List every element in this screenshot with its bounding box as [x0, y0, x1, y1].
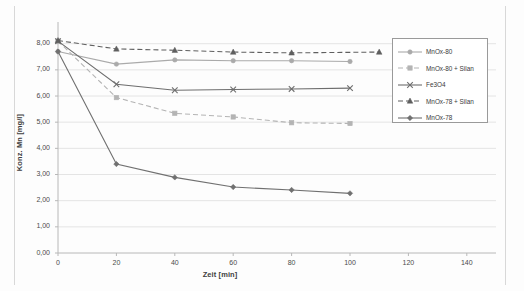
- legend-swatch-circle: [397, 47, 423, 57]
- x-tick-label: 80: [277, 259, 307, 266]
- data-point-square: [231, 115, 235, 119]
- series-3: [55, 38, 382, 55]
- series-0: [56, 49, 352, 66]
- data-point-square: [114, 95, 118, 99]
- legend-item-fe3o4[interactable]: Fe3O4: [397, 76, 446, 93]
- data-point-diamond: [114, 161, 119, 166]
- y-tick-label: 0,00: [20, 249, 50, 256]
- legend-swatch-triangle: [397, 96, 423, 106]
- data-point-square: [173, 111, 177, 115]
- data-point-square: [348, 121, 352, 125]
- data-point-circle: [289, 59, 293, 63]
- x-tick-label: 60: [218, 259, 248, 266]
- legend-item-mnox-80[interactable]: MnOx-80: [397, 43, 452, 60]
- legend-swatch-square: [397, 63, 423, 73]
- series-line: [58, 41, 379, 53]
- y-tick-label: 8,00: [20, 39, 50, 46]
- y-tick-label: 5,00: [20, 118, 50, 125]
- legend-label: Fe3O4: [426, 81, 446, 88]
- legend-swatch-diamond: [397, 113, 423, 123]
- data-point-diamond: [55, 49, 60, 54]
- y-tick-label: 6,00: [20, 92, 50, 99]
- y-tick-label: 4,00: [20, 144, 50, 151]
- x-tick-label: 20: [101, 259, 131, 266]
- y-tick-label: 3,00: [20, 170, 50, 177]
- legend-item-mnox-78-silan[interactable]: MnOx-78 + Silan: [397, 93, 474, 110]
- legend-swatch-cross: [397, 80, 423, 90]
- y-tick-label: 7,00: [20, 65, 50, 72]
- legend-label: MnOx-78: [426, 114, 452, 121]
- series-line: [58, 41, 350, 123]
- x-tick-label: 140: [452, 259, 482, 266]
- x-tick-label: 100: [335, 259, 365, 266]
- legend-label: MnOx-78 + Silan: [426, 98, 474, 105]
- data-series-group: [55, 38, 382, 196]
- data-point-diamond: [347, 191, 352, 196]
- chart-figure: 0,001,002,003,004,005,006,007,008,000204…: [0, 0, 524, 291]
- legend-item-mnox-80-silan[interactable]: MnOx-80 + Silan: [397, 60, 474, 77]
- data-point-circle: [231, 59, 235, 63]
- legend-item-mnox-78[interactable]: MnOx-78: [397, 109, 452, 126]
- data-point-circle: [173, 58, 177, 62]
- legend-label: MnOx-80 + Silan: [426, 65, 474, 72]
- data-point-square: [408, 66, 412, 70]
- data-point-diamond: [172, 175, 177, 180]
- y-tick-label: 2,00: [20, 196, 50, 203]
- data-point-triangle: [376, 49, 382, 54]
- series-line: [58, 52, 350, 65]
- data-point-diamond: [231, 184, 236, 189]
- legend-label: MnOx-80: [426, 48, 452, 55]
- data-point-circle: [114, 62, 118, 66]
- data-point-square: [289, 121, 293, 125]
- x-axis-title: Zeit [min]: [0, 270, 440, 279]
- data-point-diamond: [407, 115, 412, 120]
- x-tick-label: 120: [393, 259, 423, 266]
- y-axis-title: Konz. Mn [mg/l]: [15, 88, 24, 198]
- x-tick-label: 40: [160, 259, 190, 266]
- chart-legend: MnOx-80MnOx-80 + SilanFe3O4MnOx-78 + Sil…: [392, 38, 488, 123]
- data-point-circle: [408, 49, 412, 53]
- data-point-circle: [348, 59, 352, 63]
- x-tick-label: 0: [43, 259, 73, 266]
- series-1: [56, 39, 352, 126]
- data-point-diamond: [289, 187, 294, 192]
- y-tick-label: 1,00: [20, 222, 50, 229]
